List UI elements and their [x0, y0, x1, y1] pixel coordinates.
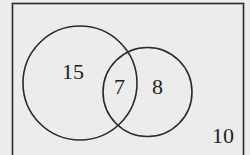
region-only-b-value: 8 — [152, 76, 163, 98]
region-intersection-value: 7 — [114, 76, 125, 98]
region-neither-value: 10 — [212, 125, 234, 147]
venn-diagram: 15 7 8 10 — [0, 0, 250, 155]
region-only-a-value: 15 — [62, 61, 84, 83]
